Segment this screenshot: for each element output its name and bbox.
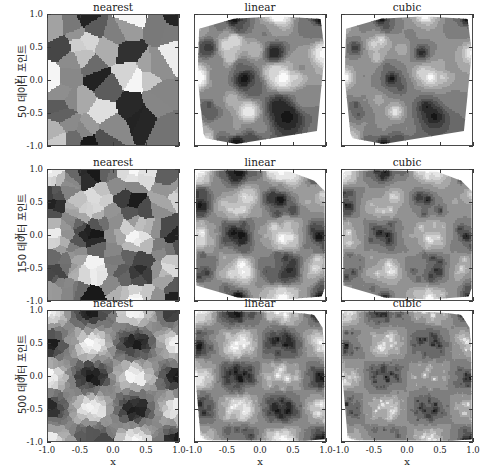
y-tick-mark: [322, 442, 326, 443]
plot-panel-linear-50: [194, 14, 326, 146]
x-tick-label: 0.0: [96, 445, 130, 455]
y-tick-mark: [194, 310, 198, 311]
y-tick-mark: [47, 376, 51, 377]
y-tick-mark: [194, 343, 198, 344]
y-tick-mark: [322, 268, 326, 269]
x-tick-mark: [260, 310, 261, 314]
x-tick-mark: [146, 310, 147, 314]
y-tick-mark: [175, 376, 179, 377]
plot-panel-linear-150: [194, 169, 326, 301]
x-tick-label: -1.0: [324, 445, 358, 455]
y-tick-mark: [469, 80, 473, 81]
x-tick-mark: [260, 142, 261, 146]
x-tick-mark: [80, 142, 81, 146]
y-tick-label: -1.0: [15, 141, 43, 151]
y-tick-mark: [175, 268, 179, 269]
plot-panel-nearest-500: [47, 310, 179, 442]
x-tick-label: -1.0: [177, 445, 211, 455]
y-tick-mark: [47, 14, 51, 15]
y-tick-mark: [322, 409, 326, 410]
x-tick-mark: [227, 438, 228, 442]
y-tick-mark: [322, 146, 326, 147]
y-tick-mark: [469, 47, 473, 48]
x-tick-mark: [113, 14, 114, 18]
x-tick-mark: [407, 142, 408, 146]
x-tick-mark: [227, 142, 228, 146]
x-tick-mark: [260, 438, 261, 442]
x-tick-mark: [113, 310, 114, 314]
x-tick-mark: [440, 142, 441, 146]
x-tick-label: -0.5: [210, 445, 244, 455]
x-axis-label: x: [341, 456, 473, 467]
x-tick-mark: [326, 438, 327, 442]
y-tick-mark: [47, 146, 51, 147]
x-tick-mark: [326, 14, 327, 18]
row-label-500-points: 500 데이터 포인트: [14, 335, 29, 414]
y-tick-mark: [341, 14, 345, 15]
x-tick-label: -0.5: [357, 445, 391, 455]
y-tick-mark: [175, 146, 179, 147]
x-tick-mark: [227, 169, 228, 173]
x-axis-label: x: [194, 456, 326, 467]
x-tick-mark: [473, 14, 474, 18]
x-tick-mark: [146, 438, 147, 442]
x-tick-mark: [407, 14, 408, 18]
y-tick-mark: [47, 310, 51, 311]
x-tick-label: 1.0: [456, 445, 480, 455]
y-tick-mark: [194, 235, 198, 236]
y-tick-mark: [194, 14, 198, 15]
y-tick-mark: [175, 47, 179, 48]
y-tick-mark: [341, 343, 345, 344]
y-tick-mark: [175, 202, 179, 203]
y-tick-label: 1.0: [15, 164, 43, 174]
y-tick-mark: [175, 113, 179, 114]
x-tick-mark: [326, 142, 327, 146]
x-tick-label: 0.5: [129, 445, 163, 455]
y-tick-mark: [469, 376, 473, 377]
y-tick-mark: [469, 14, 473, 15]
x-tick-mark: [179, 297, 180, 301]
y-tick-mark: [194, 202, 198, 203]
row-label-50-points: 50 데이터 포인트: [14, 45, 29, 118]
y-tick-mark: [322, 14, 326, 15]
x-tick-mark: [473, 142, 474, 146]
y-tick-mark: [341, 47, 345, 48]
y-tick-mark: [322, 169, 326, 170]
x-tick-mark: [293, 310, 294, 314]
y-tick-mark: [322, 47, 326, 48]
x-tick-mark: [293, 142, 294, 146]
x-tick-label: 0.5: [423, 445, 457, 455]
x-tick-mark: [326, 310, 327, 314]
x-tick-mark: [113, 438, 114, 442]
x-tick-mark: [440, 14, 441, 18]
panel-title-cubic-150: cubic: [341, 156, 473, 168]
x-tick-mark: [260, 169, 261, 173]
y-tick-mark: [341, 409, 345, 410]
y-tick-mark: [194, 113, 198, 114]
plot-panel-cubic-500: [341, 310, 473, 442]
y-tick-mark: [194, 376, 198, 377]
y-tick-mark: [469, 268, 473, 269]
x-tick-mark: [113, 169, 114, 173]
y-tick-mark: [341, 310, 345, 311]
x-tick-label: 0.0: [243, 445, 277, 455]
y-tick-mark: [194, 442, 198, 443]
y-tick-mark: [469, 169, 473, 170]
x-tick-mark: [293, 169, 294, 173]
x-tick-mark: [440, 438, 441, 442]
y-tick-mark: [47, 80, 51, 81]
y-tick-mark: [341, 146, 345, 147]
plot-panel-nearest-150: [47, 169, 179, 301]
y-tick-mark: [194, 80, 198, 81]
y-tick-mark: [469, 235, 473, 236]
panel-title-nearest-50: nearest: [47, 1, 179, 13]
y-tick-mark: [469, 310, 473, 311]
x-tick-mark: [407, 310, 408, 314]
y-tick-mark: [194, 146, 198, 147]
x-tick-mark: [293, 14, 294, 18]
y-tick-mark: [469, 202, 473, 203]
y-tick-mark: [322, 113, 326, 114]
y-tick-mark: [194, 409, 198, 410]
y-tick-mark: [341, 113, 345, 114]
x-tick-mark: [407, 169, 408, 173]
